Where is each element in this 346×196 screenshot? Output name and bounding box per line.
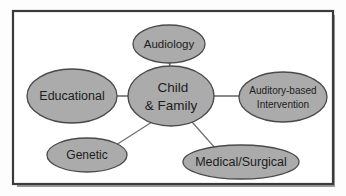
node-auditory-based-intervention-label-line1: Auditory-based (249, 85, 316, 96)
node-medical-surgical-label: Medical/Surgical (195, 155, 287, 169)
node-child-and-family-label-line2: & Family (145, 98, 198, 113)
node-auditory-based-intervention-shape (239, 72, 327, 122)
node-audiology-label: Audiology (144, 38, 195, 50)
concept-map-diagram: Audiology Educational Child & Family Aud… (0, 0, 346, 196)
node-genetic-label: Genetic (66, 148, 107, 162)
node-educational-label: Educational (39, 89, 104, 103)
node-medical-surgical[interactable]: Medical/Surgical (183, 145, 299, 179)
node-child-and-family-label-line1: Child (158, 80, 189, 95)
node-child-and-family[interactable]: Child & Family (128, 66, 214, 126)
node-educational[interactable]: Educational (27, 69, 117, 123)
diagram-canvas: Audiology Educational Child & Family Aud… (0, 0, 346, 196)
node-child-and-family-shape (128, 66, 214, 126)
node-auditory-based-intervention-label-line2: Intervention (257, 99, 309, 110)
node-auditory-based-intervention[interactable]: Auditory-based Intervention (239, 72, 327, 122)
node-audiology[interactable]: Audiology (133, 25, 205, 63)
node-genetic[interactable]: Genetic (47, 138, 127, 172)
